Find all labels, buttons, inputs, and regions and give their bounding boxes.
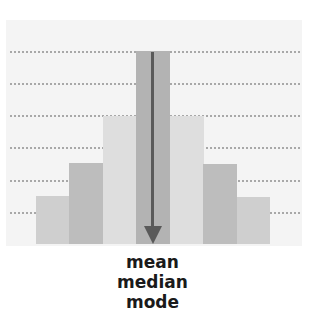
- bar-6: [203, 164, 237, 244]
- label-mode: mode: [0, 292, 305, 312]
- arrow-down-icon: [151, 52, 154, 230]
- bar-2: [69, 163, 103, 244]
- bar-3: [103, 116, 137, 244]
- label-median: median: [0, 272, 305, 292]
- bar-5: [170, 116, 204, 244]
- caption: mean median mode: [0, 252, 305, 312]
- label-mean: mean: [0, 252, 305, 272]
- bar-7: [237, 197, 270, 244]
- bar-1: [36, 196, 70, 244]
- arrowhead-icon: [144, 226, 162, 244]
